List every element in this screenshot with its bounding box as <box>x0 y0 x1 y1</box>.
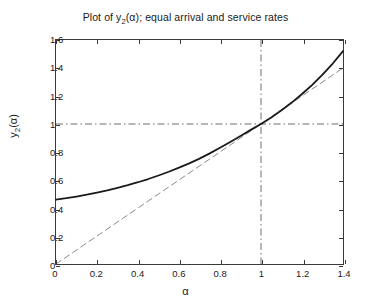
identity-line <box>56 68 343 264</box>
chart-title-prefix: Plot of y <box>83 11 122 23</box>
x-tick-label-5: 1 <box>259 268 264 279</box>
y-tick-right-3 <box>339 181 343 182</box>
x-tick-4 <box>221 260 222 264</box>
main-curve-group <box>56 51 343 199</box>
x-tick-2 <box>139 260 140 264</box>
x-tick-top-5 <box>262 40 263 44</box>
x-tick-7 <box>345 260 346 264</box>
x-tick-label-7: 1.4 <box>337 268 350 279</box>
y-axis-label-prefix: y <box>7 132 19 138</box>
y-tick-right-0 <box>339 266 343 267</box>
y-tick-right-5 <box>339 125 343 126</box>
series-layer <box>56 40 343 264</box>
x-tick-label-4: 0.8 <box>214 268 227 279</box>
x-tick-top-1 <box>97 40 98 44</box>
y-tick-right-7 <box>339 68 343 69</box>
chart-title-suffix: (α); equal arrival and service rates <box>126 11 289 23</box>
y-tick-5 <box>56 125 60 126</box>
plot-area <box>55 39 344 265</box>
y-tick-right-2 <box>339 210 343 211</box>
figure-canvas: Plot of y2(α); equal arrival and service… <box>0 0 371 308</box>
x-tick-5 <box>262 260 263 264</box>
chart-title: Plot of y2(α); equal arrival and service… <box>0 11 371 28</box>
x-tick-top-6 <box>304 40 305 44</box>
x-tick-label-3: 0.6 <box>172 268 185 279</box>
x-tick-top-2 <box>139 40 140 44</box>
y-axis-label-suffix: (α) <box>7 114 19 128</box>
x-tick-label-2: 0.4 <box>131 268 144 279</box>
y-tick-right-1 <box>339 238 343 239</box>
x-tick-1 <box>97 260 98 264</box>
x-tick-top-3 <box>180 40 181 44</box>
y-tick-right-8 <box>339 40 343 41</box>
main-curve <box>56 51 343 199</box>
y-axis-label: y2(α) <box>7 114 22 138</box>
x-tick-0 <box>56 260 57 264</box>
x-tick-6 <box>304 260 305 264</box>
identity-line-group <box>56 68 343 264</box>
reference-lines-group <box>56 40 343 264</box>
y-tick-right-6 <box>339 97 343 98</box>
x-tick-top-4 <box>221 40 222 44</box>
x-tick-top-7 <box>345 40 346 44</box>
x-tick-label-1: 0.2 <box>90 268 103 279</box>
y-tick-0 <box>56 266 60 267</box>
x-tick-label-6: 1.2 <box>296 268 309 279</box>
x-axis-label: α <box>0 285 371 297</box>
plot-inner <box>56 40 343 264</box>
y-tick-right-4 <box>339 153 343 154</box>
y-axis-label-subscript: 2 <box>13 128 22 132</box>
x-tick-3 <box>180 260 181 264</box>
